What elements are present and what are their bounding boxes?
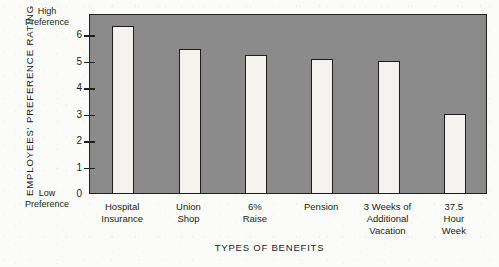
- bar: [444, 114, 466, 193]
- x-category-label: 37.5HourWeek: [411, 201, 497, 237]
- y-axis-title: EMPLOYEES' PREFERENCE RATING: [24, 1, 35, 201]
- y-tick-label-0: 0: [62, 189, 82, 199]
- plot-area: [89, 14, 487, 194]
- x-axis-title: TYPES OF BENEFITS: [0, 242, 499, 253]
- x-category-label-line1: 37.5: [411, 201, 497, 213]
- bar: [245, 55, 267, 193]
- bar: [112, 26, 134, 193]
- y-axis-tick-labels: 0123456: [62, 0, 82, 267]
- x-category-label-line3: Week: [411, 225, 497, 237]
- y-tick-mark-6: [84, 35, 95, 37]
- x-category-label-line2: Raise: [212, 213, 298, 225]
- bar: [311, 59, 333, 193]
- y-tick-label-6: 6: [62, 30, 82, 40]
- chart-page: EMPLOYEES' PREFERENCE RATING High Prefer…: [0, 0, 499, 267]
- y-tick-label-4: 4: [62, 83, 82, 93]
- y-tick-label-3: 3: [62, 110, 82, 120]
- x-category-label-line2: Hour: [411, 213, 497, 225]
- y-tick-mark-3: [84, 115, 95, 117]
- y-tick-mark-5: [84, 62, 95, 64]
- y-tick-mark-4: [84, 88, 95, 90]
- y-tick-label-2: 2: [62, 136, 82, 146]
- y-tick-mark-2: [84, 141, 95, 143]
- y-tick-mark-1: [84, 168, 95, 170]
- y-tick-label-5: 5: [62, 57, 82, 67]
- bar: [378, 61, 400, 193]
- bar: [179, 49, 201, 193]
- y-tick-label-1: 1: [62, 163, 82, 173]
